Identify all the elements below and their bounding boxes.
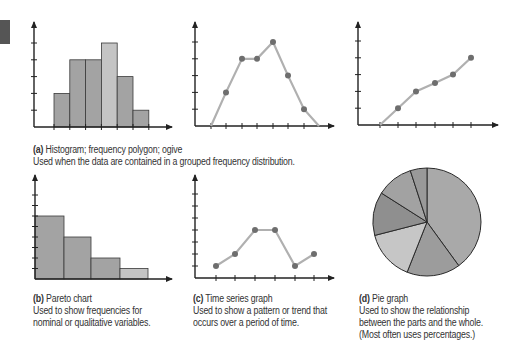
chart-types-figure: (a) Histogram; frequency polygon; ogive … [0,0,517,354]
histogram-bar [101,43,117,127]
data-point [213,263,219,269]
data-line [211,42,319,126]
data-line [380,58,471,125]
caption-b: (b) Pareto chart Used to show frequencie… [33,293,150,329]
caption-b-description-line: Used to show frequencies for [33,305,150,317]
data-point [395,105,401,111]
caption-d: (d) Pie graph Used to show the relations… [359,293,483,341]
pareto-bar [91,258,120,279]
caption-d-description-line: (Most often uses percentages.) [359,329,483,341]
pareto-bar [64,237,91,279]
caption-d-description-line: Used to show the relationship [359,305,483,317]
pareto-chart [32,175,172,279]
data-point [311,251,317,257]
caption-c-title: Time series graph [205,293,272,304]
caption-a: (a) Histogram; frequency polygon; ogive … [33,144,295,168]
caption-d-title: Pie graph [372,293,408,304]
histogram-chart [31,22,172,130]
data-point [272,227,278,233]
caption-c-label: (c) [193,293,203,304]
histogram-bar [70,60,86,127]
data-point [413,88,419,94]
data-point [223,89,229,95]
caption-d-description-line: between the parts and the whole. [359,317,483,329]
pie-chart [373,168,481,276]
data-point [301,106,307,112]
caption-c-description-line: Used to show a pattern or trend that [193,305,327,317]
data-point [252,227,258,233]
ogive-chart [355,22,498,128]
time-series-chart [192,175,334,281]
data-point [285,73,291,79]
data-point [232,251,238,257]
histogram-bar [86,60,102,127]
data-point [432,80,438,86]
histogram-bar [133,110,149,127]
caption-a-description: Used when the data are contained in a gr… [33,156,295,168]
caption-b-description-line: nominal or qualitative variables. [33,317,150,329]
frequency-polygon-chart [192,22,334,129]
histogram-bar [117,77,133,127]
data-point [254,56,260,62]
caption-a-title: Histogram; frequency polygon; ogive [46,144,183,155]
pareto-bar [35,216,64,279]
data-point [239,56,245,62]
data-point [450,72,456,78]
histogram-bar [54,93,70,127]
caption-c-description-line: occurs over a period of time. [193,317,327,329]
data-line [216,230,314,266]
caption-a-label: (a) [33,144,43,155]
caption-c: (c) Time series graph Used to show a pat… [193,293,327,329]
data-point [468,55,474,61]
caption-b-label: (b) [33,293,44,304]
pareto-bar [120,269,148,280]
caption-b-title: Pareto chart [46,293,92,304]
caption-d-label: (d) [359,293,370,304]
data-point [292,263,298,269]
data-point [270,39,276,45]
